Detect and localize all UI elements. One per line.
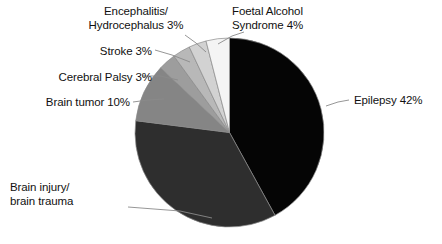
pie-label-foetal-alcohol-syndrome: Foetal Alcohol Syndrome 4% xyxy=(232,4,303,32)
pie-chart-figure: Foetal Alcohol Syndrome 4% Encephalitis/… xyxy=(0,0,442,244)
pie-label-encephalitis-line1: Encephalitis/ xyxy=(60,4,212,18)
pie-label-foetal-alcohol-line2: Syndrome 4% xyxy=(232,18,303,32)
pie-label-stroke: Stroke 3% xyxy=(60,44,152,58)
pie-label-brain-injury-line2: brain trauma xyxy=(10,194,122,208)
pie-label-encephalitis-hydrocephalus: Encephalitis/ Hydrocephalus 3% xyxy=(60,4,212,32)
leader-line-epilepsy xyxy=(326,100,349,106)
pie-slices xyxy=(135,38,324,227)
pie-label-cerebral-palsy: Cerebral Palsy 3% xyxy=(14,70,152,84)
pie-label-brain-injury-brain-trauma: Brain injury/ brain trauma xyxy=(10,180,122,208)
pie-label-brain-tumor: Brain tumor 10% xyxy=(8,95,130,109)
pie-label-epilepsy: Epilepsy 42% xyxy=(354,93,422,107)
pie-label-encephalitis-line2: Hydrocephalus 3% xyxy=(60,18,212,32)
pie-label-brain-injury-line1: Brain injury/ xyxy=(10,180,122,194)
pie-label-foetal-alcohol-line1: Foetal Alcohol xyxy=(232,4,303,18)
